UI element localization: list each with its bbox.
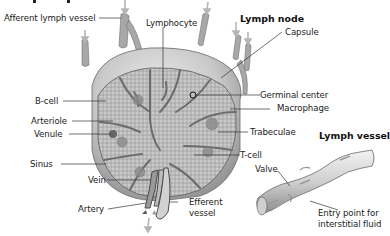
lymph-vessel-title: Lymph vessel bbox=[319, 130, 390, 141]
label-valve: Valve bbox=[255, 164, 278, 174]
lymph-vessel-artwork bbox=[257, 150, 374, 215]
label-afferent-lymph-vessel: Afferent lymph vessel bbox=[4, 13, 95, 23]
blood-flow-arrows bbox=[142, 210, 156, 215]
label-macrophage: Macrophage bbox=[277, 103, 329, 113]
label-b-cell: B-cell bbox=[35, 96, 58, 106]
cropped-title-fragment bbox=[33, 0, 70, 3]
label-trabeculae: Trabeculae bbox=[250, 127, 296, 137]
label-t-cell: T-cell bbox=[240, 150, 262, 160]
label-entry-point-line2: interstitial fluid bbox=[318, 219, 381, 229]
label-lymphocyte: Lymphocyte bbox=[146, 18, 197, 28]
lymph-node-diagram: Lymph node Lymph vessel Afferent lymph v… bbox=[0, 0, 390, 236]
label-capsule: Capsule bbox=[285, 27, 319, 37]
label-efferent-vessel-line2: vessel bbox=[189, 208, 215, 218]
label-entry-point-line1: Entry point for bbox=[318, 208, 379, 218]
label-arteriole: Arteriole bbox=[31, 116, 67, 126]
label-vein: Vein bbox=[88, 175, 106, 185]
lymph-node-title: Lymph node bbox=[240, 13, 304, 24]
label-sinus: Sinus bbox=[30, 159, 53, 169]
label-venule: Venule bbox=[34, 129, 62, 139]
label-efferent-vessel-line1: Efferent bbox=[189, 197, 222, 207]
label-artery: Artery bbox=[78, 204, 104, 214]
label-germinal-center: Germinal center bbox=[260, 90, 328, 100]
